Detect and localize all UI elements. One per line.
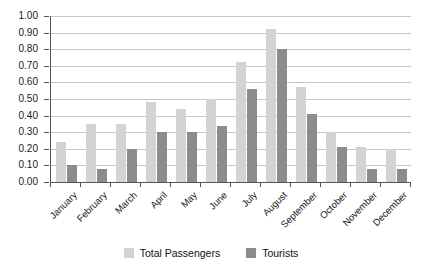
- x-axis-tick-mark: [290, 183, 291, 187]
- bar-total-passengers: [116, 124, 126, 182]
- y-axis-tick-mark: [44, 116, 49, 117]
- y-axis-tick-label: 1.00: [19, 11, 38, 21]
- legend-item: Total Passengers: [124, 248, 221, 259]
- x-axis-tick-mark: [320, 183, 321, 187]
- y-axis-tick-label: 0.80: [19, 44, 38, 54]
- bar-group: [326, 16, 347, 182]
- y-axis-tick-label: 0.60: [19, 77, 38, 87]
- x-axis-tick-mark: [140, 183, 141, 187]
- x-axis-tick-mark: [200, 183, 201, 187]
- bar-group: [86, 16, 107, 182]
- bar-tourists: [337, 147, 347, 182]
- x-axis-tick-mark: [230, 183, 231, 187]
- y-axis-tick-label: 0.10: [19, 160, 38, 170]
- y-axis-tick-mark: [44, 33, 49, 34]
- legend-swatch-icon: [246, 248, 256, 258]
- bar-tourists: [187, 132, 197, 182]
- bar-tourists: [157, 132, 167, 182]
- chart-legend: Total PassengersTourists: [0, 248, 422, 259]
- x-axis-tick-mark: [170, 183, 171, 187]
- x-axis-tick-label: March: [113, 190, 138, 215]
- x-axis-tick-label: April: [148, 190, 168, 210]
- y-axis-tick-label: 0.30: [19, 127, 38, 137]
- y-axis-tick-mark: [44, 66, 49, 67]
- y-axis-tick-mark: [44, 99, 49, 100]
- bar-group: [146, 16, 167, 182]
- legend-swatch-icon: [124, 248, 134, 258]
- y-axis-tick-label: 0.70: [19, 61, 38, 71]
- y-axis-tick-label: 0.00: [19, 177, 38, 187]
- x-axis-tick-mark: [410, 183, 411, 187]
- bar-group: [266, 16, 287, 182]
- bar-total-passengers: [386, 149, 396, 182]
- x-axis-tick-mark: [110, 183, 111, 187]
- bar-tourists: [127, 149, 137, 182]
- x-axis-tick-mark: [260, 183, 261, 187]
- grouped-bar-chart: 1.000.900.800.700.600.500.400.300.200.10…: [0, 0, 422, 280]
- x-axis-tick-label: June: [207, 190, 228, 211]
- bar-total-passengers: [86, 124, 96, 182]
- bar-total-passengers: [206, 99, 216, 182]
- y-axis-tick-mark: [44, 82, 49, 83]
- bar-group: [206, 16, 227, 182]
- y-axis: 1.000.900.800.700.600.500.400.300.200.10…: [0, 16, 44, 182]
- y-axis-tick-mark: [44, 132, 49, 133]
- y-axis-tick-mark: [44, 149, 49, 150]
- bar-group: [176, 16, 197, 182]
- bar-tourists: [97, 169, 107, 182]
- bar-tourists: [247, 89, 257, 182]
- bar-group: [116, 16, 137, 182]
- y-axis-tick-mark: [44, 16, 49, 17]
- bar-total-passengers: [236, 62, 246, 182]
- bar-total-passengers: [326, 132, 336, 182]
- bar-tourists: [277, 49, 287, 182]
- legend-label: Tourists: [262, 248, 298, 259]
- x-axis-tick-mark: [380, 183, 381, 187]
- y-axis-tick-label: 0.40: [19, 111, 38, 121]
- y-axis-tick-label: 0.90: [19, 28, 38, 38]
- plot-area: [50, 16, 411, 183]
- x-axis-tick-mark: [50, 183, 51, 187]
- bar-tourists: [307, 114, 317, 182]
- bar-total-passengers: [56, 142, 66, 182]
- bar-group: [56, 16, 77, 182]
- bar-tourists: [217, 126, 227, 182]
- x-axis: JanuaryFebruaryMarchAprilMayJuneJulyAugu…: [50, 183, 410, 243]
- x-axis-tick-mark: [80, 183, 81, 187]
- bar-total-passengers: [296, 87, 306, 182]
- bars-layer: [51, 16, 411, 182]
- x-axis-tick-label: July: [240, 190, 259, 209]
- legend-item: Tourists: [246, 248, 298, 259]
- x-axis-tick-label: February: [75, 190, 109, 224]
- bar-total-passengers: [176, 109, 186, 182]
- bar-total-passengers: [356, 147, 366, 182]
- y-axis-tick-label: 0.50: [19, 94, 38, 104]
- x-axis-tick-label: August: [261, 190, 289, 218]
- x-axis-tick-label: May: [179, 190, 198, 209]
- legend-label: Total Passengers: [140, 248, 221, 259]
- x-axis-tick-mark: [350, 183, 351, 187]
- bar-group: [356, 16, 377, 182]
- bar-tourists: [67, 165, 77, 182]
- y-axis-tick-mark: [44, 165, 49, 166]
- bar-total-passengers: [266, 29, 276, 182]
- y-axis-tick-mark: [44, 182, 49, 183]
- bar-total-passengers: [146, 102, 156, 182]
- y-axis-tick-label: 0.20: [19, 144, 38, 154]
- bar-group: [296, 16, 317, 182]
- y-axis-tick-mark: [44, 49, 49, 50]
- bar-group: [386, 16, 407, 182]
- bar-tourists: [397, 169, 407, 182]
- bar-group: [236, 16, 257, 182]
- bar-tourists: [367, 169, 377, 182]
